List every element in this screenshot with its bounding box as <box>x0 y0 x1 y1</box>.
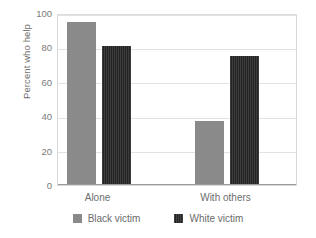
y-tick-label-60: 60 <box>30 78 52 88</box>
legend-item-white-victim: White victim <box>174 213 243 224</box>
x-axis-label-with-others: With others <box>200 192 251 203</box>
bar-alone-white-victim <box>102 46 131 185</box>
legend-label-black-victim: Black victim <box>88 213 141 224</box>
legend-label-white-victim: White victim <box>189 213 243 224</box>
legend-item-black-victim: Black victim <box>73 213 141 224</box>
bar-with-others-black-victim <box>195 121 224 186</box>
y-tick-label-40: 40 <box>30 112 52 122</box>
y-tick-label-20: 20 <box>30 147 52 157</box>
y-tick-label-80: 80 <box>30 43 52 53</box>
bar-alone-black-victim <box>67 22 96 185</box>
legend-swatch-icon-black-victim <box>73 214 82 223</box>
y-tick-label-0: 0 <box>30 181 52 191</box>
x-axis-label-alone: Alone <box>85 192 111 203</box>
y-tick-label-100: 100 <box>30 9 52 19</box>
legend-swatch-icon-white-victim <box>174 214 183 223</box>
chart-legend: Black victim White victim <box>0 213 316 224</box>
x-axis-line <box>58 184 296 185</box>
plot-area <box>57 14 297 186</box>
bar-chart-figure: Percent who help 100 80 60 40 20 0 Alone… <box>0 0 316 238</box>
bars-layer <box>58 15 296 185</box>
y-axis-tick-labels: 100 80 60 40 20 0 <box>26 0 52 238</box>
bar-with-others-white-victim <box>230 56 259 185</box>
